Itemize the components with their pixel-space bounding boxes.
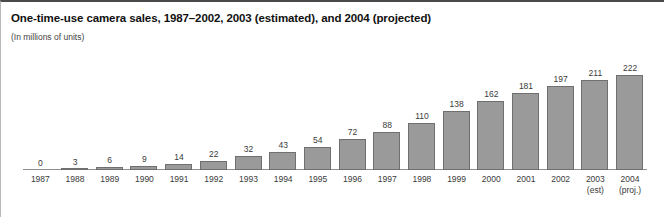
chart-subtitle: (In millions of units) bbox=[11, 32, 656, 43]
chart-title: One-time-use camera sales, 1987–2002, 20… bbox=[11, 11, 656, 25]
bar-value-label: 110 bbox=[405, 111, 440, 121]
bar bbox=[269, 152, 296, 170]
bar bbox=[443, 111, 470, 170]
bar bbox=[477, 101, 504, 170]
bar bbox=[547, 86, 574, 170]
bar-value-label: 197 bbox=[543, 74, 578, 84]
bar bbox=[200, 161, 227, 170]
category-label: 2004(proj.) bbox=[610, 174, 651, 196]
bar bbox=[512, 93, 539, 170]
bar-value-label: 3 bbox=[58, 157, 93, 167]
bar bbox=[373, 132, 400, 170]
bar bbox=[616, 75, 643, 170]
bar-value-label: 88 bbox=[370, 120, 405, 130]
chart-figure: One-time-use camera sales, 1987–2002, 20… bbox=[0, 0, 664, 217]
bar bbox=[235, 156, 262, 170]
bar-value-label: 0 bbox=[23, 158, 58, 168]
bar-value-label: 9 bbox=[127, 154, 162, 164]
bar-value-label: 162 bbox=[474, 89, 509, 99]
category-sublabel: (proj.) bbox=[610, 185, 651, 196]
bar-value-label: 32 bbox=[231, 144, 266, 154]
chart-header: One-time-use camera sales, 1987–2002, 20… bbox=[11, 11, 656, 43]
bar-value-label: 22 bbox=[196, 149, 231, 159]
bar-value-label: 181 bbox=[509, 81, 544, 91]
plot-area: 0198731988619899199014199122199232199343… bbox=[23, 60, 657, 212]
bar bbox=[339, 139, 366, 170]
bar bbox=[165, 164, 192, 170]
bar-value-label: 43 bbox=[266, 140, 301, 150]
bar bbox=[130, 166, 157, 170]
bar-value-label: 54 bbox=[301, 135, 336, 145]
bar bbox=[581, 80, 608, 170]
bar-value-label: 72 bbox=[335, 127, 370, 137]
bar bbox=[61, 168, 88, 170]
bar bbox=[96, 167, 123, 170]
bar-value-label: 138 bbox=[439, 99, 474, 109]
bar-value-label: 211 bbox=[578, 68, 613, 78]
bar bbox=[304, 147, 331, 170]
bar bbox=[408, 123, 435, 170]
bar-value-label: 222 bbox=[613, 63, 648, 73]
bar-value-label: 14 bbox=[162, 152, 197, 162]
bar-value-label: 6 bbox=[92, 155, 127, 165]
